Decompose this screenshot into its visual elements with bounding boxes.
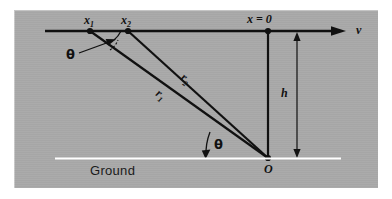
segment-r2 (128, 31, 268, 158)
label-ground: Ground (90, 163, 135, 178)
label-theta-top: θ (66, 48, 75, 61)
label-x-zero: x = 0 (247, 13, 272, 25)
label-x2: x2 (121, 14, 131, 29)
height-dimension-arrow (293, 32, 300, 158)
label-theta-bottom: θ (214, 138, 223, 151)
label-x1: x1 (84, 14, 94, 29)
diagram-vector-layer (0, 0, 392, 199)
label-origin: O (264, 163, 273, 175)
label-height: h (281, 87, 288, 99)
point-marker-x-zero (265, 28, 271, 34)
segment-r1 (90, 31, 268, 158)
theta-bottom-indicator (202, 132, 211, 159)
figure-canvas: x1 x2 x = 0 v r1 r2 h O θ θ Ground (0, 0, 392, 199)
label-velocity: v (356, 24, 361, 36)
